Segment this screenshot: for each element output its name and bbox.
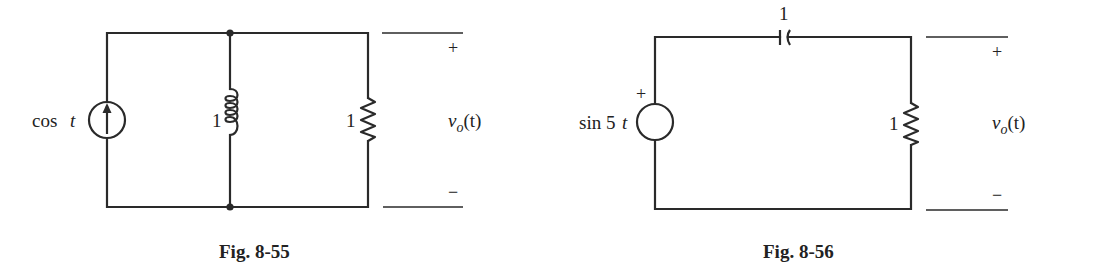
wires-8-55	[107, 33, 368, 207]
source-polarity-plus: +	[636, 84, 646, 104]
source-label-fn: sin 5	[579, 112, 615, 133]
source-label-var: t	[70, 110, 76, 131]
capacitor-value: 1	[779, 3, 789, 24]
plus-sign: +	[448, 38, 458, 58]
figure-8-56: 1 + sin 5 t 1 + − vo(t) Fig. 8-56	[579, 3, 1025, 262]
resistor-icon	[904, 103, 918, 145]
junction-node-bottom	[226, 203, 233, 210]
capacitor-icon	[780, 30, 790, 45]
figure-caption: Fig. 8-56	[763, 241, 834, 262]
wires-8-56	[655, 37, 911, 209]
plus-sign: +	[992, 42, 1002, 62]
output-voltage-label: vo(t)	[448, 110, 481, 135]
circuit-diagrams: cos t 1 1 + − vo(t) Fig. 8-55 1 +	[0, 0, 1103, 271]
minus-sign: −	[992, 185, 1002, 205]
figure-caption: Fig. 8-55	[219, 241, 290, 262]
junction-node-top	[226, 29, 233, 36]
resistor-icon	[361, 98, 375, 141]
figure-8-55: cos t 1 1 + − vo(t) Fig. 8-55	[32, 29, 481, 262]
source-label-var: t	[622, 112, 628, 133]
minus-sign: −	[448, 182, 458, 202]
inductor-icon	[226, 89, 238, 135]
current-source-icon	[89, 102, 125, 138]
resistor-value: 1	[889, 113, 899, 134]
output-voltage-label: vo(t)	[992, 112, 1025, 137]
source-label-fn: cos	[32, 110, 57, 131]
resistor-value: 1	[346, 110, 356, 131]
inductor-value: 1	[212, 110, 222, 131]
voltage-source-icon	[637, 104, 673, 140]
